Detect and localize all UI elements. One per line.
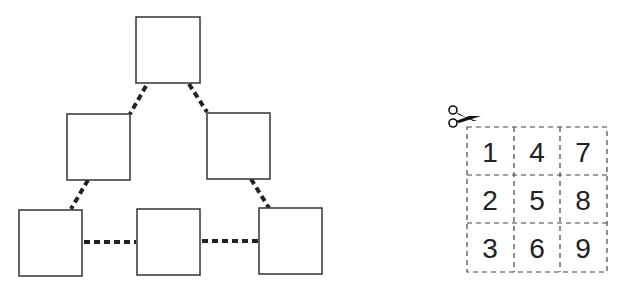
grid-numbers: 1 4 7 2 5 8 3 6 9 [482, 137, 591, 264]
cell-9: 9 [575, 233, 591, 264]
box-mid-right[interactable] [207, 113, 270, 179]
cell-6: 6 [529, 233, 545, 264]
cell-5: 5 [529, 185, 545, 216]
connector-top-midleft [130, 86, 146, 114]
box-bottom-right[interactable] [259, 208, 322, 274]
scissors-icon [449, 106, 481, 127]
cell-1: 1 [482, 137, 498, 168]
cell-2: 2 [482, 185, 498, 216]
cell-3: 3 [482, 233, 498, 264]
box-mid-left[interactable] [67, 114, 130, 180]
answer-boxes [19, 17, 322, 276]
cell-8: 8 [575, 185, 591, 216]
puzzle-diagram: 1 4 7 2 5 8 3 6 9 [0, 0, 622, 291]
connector-midright-bottomright [251, 179, 269, 208]
box-bottom-left[interactable] [19, 210, 82, 276]
connector-midleft-bottomleft [71, 180, 88, 209]
box-top[interactable] [136, 17, 200, 83]
box-bottom-mid[interactable] [137, 209, 200, 275]
connector-top-midright [189, 84, 207, 112]
cell-4: 4 [529, 137, 545, 168]
cell-7: 7 [575, 137, 591, 168]
